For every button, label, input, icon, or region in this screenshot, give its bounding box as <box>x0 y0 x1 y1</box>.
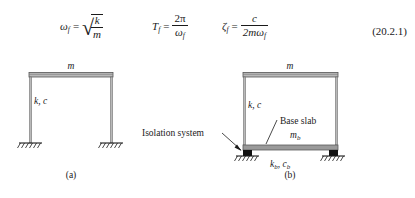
hatch <box>26 143 29 148</box>
hatch <box>329 156 332 161</box>
structural-diagram-svg: m k, c (a) <box>0 52 415 198</box>
equation-damping-zeta-f: ζf=c2mωf <box>222 14 268 41</box>
hatch <box>255 156 258 161</box>
base-slab-label: Base slab <box>280 116 316 126</box>
fraction-denominator: ωf <box>172 25 187 40</box>
hatch <box>111 143 114 148</box>
hatch <box>321 156 324 161</box>
equation-number: (20.2.1) <box>372 25 407 37</box>
hatch <box>30 143 33 148</box>
panel-a-stiffness-label: k, c <box>34 96 48 106</box>
hatch <box>235 156 238 161</box>
hatch <box>341 156 344 161</box>
beam-member <box>243 73 338 78</box>
fraction-c-over-2m-omega-f: c2mωf <box>241 13 268 40</box>
hatch <box>18 143 21 148</box>
hatch <box>247 156 250 161</box>
panel-b-left-column <box>244 77 246 145</box>
hatch <box>337 156 340 161</box>
hatch <box>119 143 122 148</box>
fraction-numerator: k <box>91 15 103 27</box>
panel-a-group: m k, c (a) <box>18 61 124 181</box>
fraction-numerator: c <box>241 13 268 25</box>
equals-sign: = <box>160 20 172 32</box>
equation-omega-f: ωf=√km <box>60 14 103 41</box>
base-slab-member <box>243 145 338 150</box>
hatch <box>333 156 336 161</box>
figure-page: ωf=√km Tf=2πωf ζf=c2mωf (20.2.1) <box>0 0 415 198</box>
zeta-f-symbol: ζf <box>222 20 229 32</box>
isolation-bearing-left <box>243 150 252 156</box>
fraction-denominator: 2mωf <box>241 25 268 40</box>
fraction-denominator: m <box>91 27 103 40</box>
hatch <box>251 156 254 161</box>
fraction-k-over-m: km <box>91 15 103 40</box>
panel-b-stiffness-label: k, c <box>248 100 262 110</box>
radicand: km <box>91 14 103 41</box>
isolation-bearing-right <box>329 150 338 156</box>
isolation-system-label: Isolation system <box>142 128 205 138</box>
hatch <box>22 143 25 148</box>
T-f-symbol: Tf <box>152 20 160 32</box>
equation-row: ωf=√km Tf=2πωf ζf=c2mωf (20.2.1) <box>0 6 415 48</box>
square-root: √km <box>82 14 103 41</box>
panel-a-mass-label: m <box>68 61 75 71</box>
base-slab-mass-symbol: mb <box>290 130 301 142</box>
beam-member <box>29 73 113 78</box>
hatch <box>38 143 41 148</box>
hatch <box>243 156 246 161</box>
panel-b-right-support <box>321 156 346 161</box>
panel-b-right-column <box>336 77 338 145</box>
equals-sign: = <box>229 20 241 32</box>
panel-a-beam <box>29 73 113 78</box>
figure-area: m k, c (a) <box>0 52 415 198</box>
panel-b-beam <box>243 73 338 78</box>
hatch <box>107 143 110 148</box>
fraction-2pi-over-omega-f: 2πωf <box>172 13 187 40</box>
panel-a-right-support <box>99 143 124 148</box>
base-slab-leader-line <box>266 120 277 144</box>
panel-b-mass-label: m <box>287 61 294 71</box>
panel-a-caption: (a) <box>66 170 77 181</box>
hatch <box>115 143 118 148</box>
panel-b-group: m k, c Base slab mb Isolation system kb,… <box>142 61 345 181</box>
hatch <box>99 143 102 148</box>
hatch <box>325 156 328 161</box>
omega-f-symbol: ωf <box>60 20 70 32</box>
hatch <box>239 156 242 161</box>
hatch <box>34 143 37 148</box>
panel-b-caption: (b) <box>284 170 295 181</box>
panel-a-right-column <box>111 77 113 143</box>
panel-a-left-column <box>30 77 32 143</box>
fraction-numerator: 2π <box>172 13 187 25</box>
equals-sign: = <box>70 20 82 32</box>
hatch <box>103 143 106 148</box>
equation-period-T-f: Tf=2πωf <box>152 14 188 41</box>
panel-b-left-support <box>235 156 260 161</box>
panel-a-left-support <box>18 143 43 148</box>
